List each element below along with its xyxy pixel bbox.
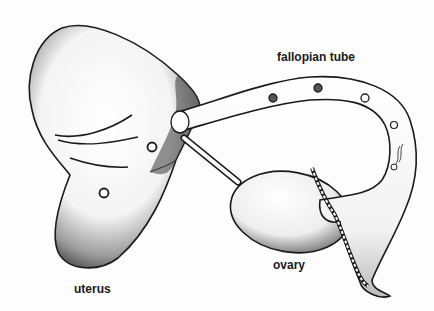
anatomy-diagram: fallopian tube uterus ovary <box>0 0 434 311</box>
ovary-label: ovary <box>273 258 305 272</box>
uterus-shape <box>29 26 200 268</box>
uterus-label: uterus <box>74 282 111 296</box>
fallopian-tube-label: fallopian tube <box>277 50 355 64</box>
ovarian-ligament <box>184 138 238 182</box>
anatomy-illustration <box>0 0 434 311</box>
